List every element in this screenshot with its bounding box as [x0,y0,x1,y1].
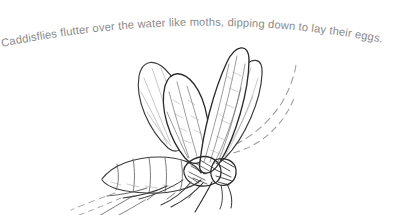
illustration-page: Caddisflies flutter over the water like … [0,0,403,215]
palps-second [220,185,222,209]
palps-icon [227,184,232,208]
trail-stroke-4 [117,200,145,215]
trail-stroke-3 [99,196,133,215]
forewing-right [200,48,249,173]
caddisfly-drawing [55,30,345,215]
